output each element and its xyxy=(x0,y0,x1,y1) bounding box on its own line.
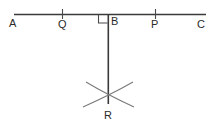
point-label-a: A xyxy=(9,18,16,29)
point-label-p: P xyxy=(151,19,158,30)
geometry-drawing xyxy=(0,0,214,126)
point-label-c: C xyxy=(197,19,205,30)
point-label-q: Q xyxy=(58,19,67,30)
point-label-r: R xyxy=(104,110,112,121)
point-label-b: B xyxy=(111,16,118,27)
geometry-figure: A Q B P C R xyxy=(0,0,214,126)
right-angle-marker xyxy=(99,15,108,24)
